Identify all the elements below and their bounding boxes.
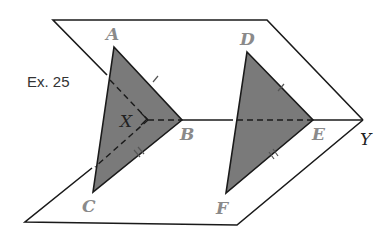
label-a: A xyxy=(104,24,119,44)
two-planes-diagram: Ex. 25 A B C X D E F Y xyxy=(0,0,383,239)
tick-ab xyxy=(153,76,158,82)
label-x: X xyxy=(118,111,133,131)
label-b: B xyxy=(179,124,194,144)
label-f: F xyxy=(215,198,230,218)
label-d: D xyxy=(239,29,255,49)
label-e: E xyxy=(311,124,326,144)
label-c: C xyxy=(82,196,96,216)
label-y: Y xyxy=(360,129,373,149)
upper-plane xyxy=(53,20,363,120)
exercise-caption: Ex. 25 xyxy=(27,73,70,90)
